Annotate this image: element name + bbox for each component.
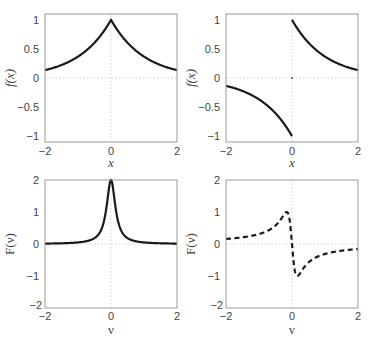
xtick-label: 0 [289, 310, 295, 322]
origin-dot [291, 77, 293, 79]
y-axis-label: f(x) [2, 69, 17, 87]
ytick-label: 0.5 [205, 43, 220, 55]
ytick-label: 2 [33, 174, 39, 186]
y-axis-label: F(ν) [2, 233, 17, 255]
ytick-label: 0 [33, 72, 39, 84]
ytick-label: 2 [214, 174, 220, 186]
y-axis-label: f(x) [183, 69, 198, 87]
xtick-label: 2 [174, 310, 180, 322]
xtick-label: 0 [108, 310, 114, 322]
y-axis-label: F(ν) [183, 233, 198, 255]
xtick-label: −2 [39, 310, 52, 322]
panel-bottom-right: 2 1 0 −1 −2 −2 0 2 ν F(ν) [183, 174, 361, 337]
xtick-label: −2 [39, 145, 52, 157]
ytick-label: 0 [33, 238, 39, 250]
ytick-label: 0 [214, 238, 220, 250]
ytick-label: 1 [33, 206, 39, 218]
ytick-label: 1 [214, 14, 220, 26]
ytick-label: −1 [26, 270, 39, 282]
panel-top-left: 1 0.5 0 −0.5 −1 −2 0 2 x f(x) [2, 14, 180, 170]
panel-bottom-left: 2 1 0 −1 −2 −2 0 2 ν F(ν) [2, 174, 180, 337]
ytick-label: −0.5 [17, 101, 39, 113]
ytick-label: −1 [207, 270, 220, 282]
curve-f-signed-left [226, 86, 292, 136]
xtick-label: 2 [355, 310, 361, 322]
x-axis-label: ν [108, 322, 114, 337]
ytick-label: 0 [214, 72, 220, 84]
curve-f-signed-right [292, 20, 358, 70]
ytick-label: −1 [207, 130, 220, 142]
figure: 1 0.5 0 −0.5 −1 −2 0 2 x f(x) 1 0.5 0 −0… [0, 0, 372, 341]
ytick-label: −0.5 [198, 101, 220, 113]
x-axis-label: x [107, 155, 114, 170]
ytick-label: 1 [214, 206, 220, 218]
xtick-label: 2 [174, 145, 180, 157]
x-axis-label: ν [289, 322, 295, 337]
xtick-label: −2 [220, 145, 233, 157]
ytick-label: −1 [26, 130, 39, 142]
curve-f-exp-abs [45, 20, 177, 70]
x-axis-label: x [288, 155, 295, 170]
xtick-label: 2 [355, 145, 361, 157]
ytick-label: 1 [33, 14, 39, 26]
xtick-label: −2 [220, 310, 233, 322]
panel-top-right: 1 0.5 0 −0.5 −1 −2 0 2 x f(x) [183, 14, 361, 170]
ytick-label: 0.5 [24, 43, 39, 55]
